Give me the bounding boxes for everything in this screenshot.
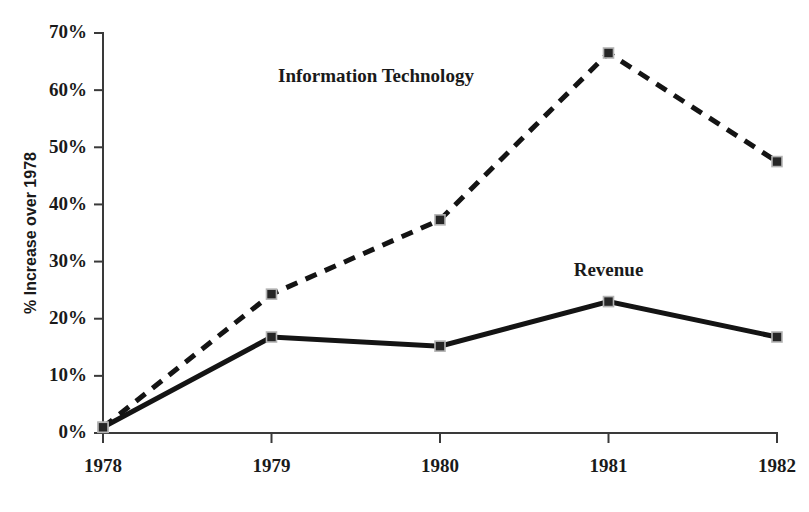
y-tick-label: 70%	[49, 21, 87, 42]
data-point-marker	[435, 341, 445, 351]
data-point-marker	[604, 297, 614, 307]
data-point-marker	[267, 332, 277, 342]
series-label-information-technology: Information Technology	[278, 65, 474, 86]
x-tick-label: 1980	[421, 455, 459, 476]
y-tick-label: 40%	[49, 193, 87, 214]
series-annotation-labels: Information TechnologyRevenue	[278, 65, 643, 280]
y-tick-label: 50%	[49, 136, 87, 157]
y-tick-label: 30%	[49, 250, 87, 271]
y-axis-tick-labels: 0%10%20%30%40%50%60%70%	[49, 21, 87, 442]
y-axis-title: % Increase over 1978	[22, 152, 39, 314]
series-line-revenue	[103, 302, 777, 428]
data-point-marker	[98, 422, 108, 432]
x-axis-tick-labels: 19781979198019811982	[84, 455, 796, 476]
y-tick-label: 0%	[59, 421, 88, 442]
y-tick-label: 10%	[49, 364, 87, 385]
series-label-revenue: Revenue	[574, 259, 644, 280]
data-point-marker	[435, 215, 445, 225]
y-tick-label: 20%	[49, 307, 87, 328]
series-layer	[103, 53, 777, 427]
data-point-marker	[604, 48, 614, 58]
data-point-marker	[772, 157, 782, 167]
y-tick-label: 60%	[49, 79, 87, 100]
y-axis-ticks	[94, 33, 103, 433]
x-tick-label: 1981	[590, 455, 628, 476]
y-axis-group: 0%10%20%30%40%50%60%70%	[49, 21, 103, 442]
x-tick-label: 1982	[758, 455, 796, 476]
chart-container: 0%10%20%30%40%50%60%70% 1978197919801981…	[0, 0, 809, 512]
line-chart: 0%10%20%30%40%50%60%70% 1978197919801981…	[0, 0, 809, 512]
data-point-marker	[772, 332, 782, 342]
x-tick-label: 1978	[84, 455, 122, 476]
x-axis-group: 19781979198019811982	[84, 433, 796, 476]
data-point-marker	[267, 289, 277, 299]
x-tick-label: 1979	[253, 455, 291, 476]
x-axis-ticks	[103, 433, 777, 443]
